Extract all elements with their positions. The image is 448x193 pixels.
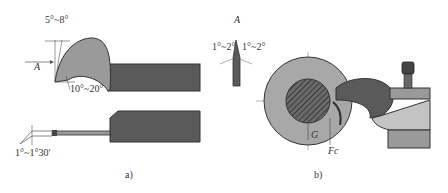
angle-top-label: 5°~8° xyxy=(45,15,68,25)
angle-bottom-label: 10°~20° xyxy=(70,84,103,94)
angle-side-label: 1°~1°30′ xyxy=(15,148,51,158)
caption-b: b) xyxy=(314,170,322,180)
view-a-angle-left: 1°~2° xyxy=(212,42,235,52)
force-g-label: G xyxy=(311,130,318,140)
caption-a: a) xyxy=(125,170,133,180)
diagram-canvas xyxy=(0,0,448,193)
workpiece-and-tool xyxy=(256,52,430,150)
view-a-title: A xyxy=(234,15,240,25)
cutoff-tool-side-view xyxy=(20,111,200,145)
force-fc-label: Fc xyxy=(328,146,339,156)
view-arrow-label: A xyxy=(34,62,40,72)
cutoff-tool-top-view xyxy=(25,38,200,91)
view-a-angle-right: 1°~2° xyxy=(242,42,265,52)
